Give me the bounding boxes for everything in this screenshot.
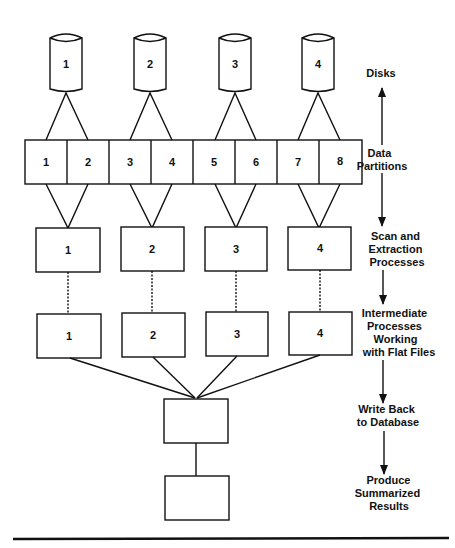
scan-process-label: 4 xyxy=(317,242,324,254)
partition-7: 7 xyxy=(295,156,301,168)
scan-extraction-processes: 1 2 3 4 xyxy=(36,227,351,272)
partition-1: 1 xyxy=(43,156,49,168)
summary-results-box xyxy=(165,476,229,520)
disk-label: 3 xyxy=(232,58,238,70)
disk-4: 4 xyxy=(302,34,334,92)
connector xyxy=(130,184,172,228)
connector xyxy=(46,184,88,228)
intermediate-process-label: 4 xyxy=(317,327,324,339)
connector xyxy=(298,184,340,228)
scan-process-label: 3 xyxy=(233,243,239,255)
partition-2: 2 xyxy=(85,156,91,168)
partition-scan-connectors xyxy=(46,184,340,228)
stage-label-intermediate: Intermediate Processes Working with Flat… xyxy=(362,307,436,358)
stage-label-write-back: Write Back to Database xyxy=(357,403,419,428)
data-partitions-row: 1 2 3 4 5 6 7 8 xyxy=(25,140,362,184)
connector xyxy=(215,93,256,140)
partition-6: 6 xyxy=(253,156,259,168)
disk-3: 3 xyxy=(219,34,251,92)
disk-label: 4 xyxy=(315,58,322,70)
merge-connectors xyxy=(70,355,320,398)
intermediate-process-label: 1 xyxy=(66,330,72,342)
stage-label-partitions: Data Partitions xyxy=(357,147,408,172)
scan-process-label: 1 xyxy=(65,244,71,256)
intermediate-process-label: 3 xyxy=(234,328,240,340)
disk-2: 2 xyxy=(134,34,166,92)
partition-3: 3 xyxy=(127,156,133,168)
stage-label-disks: Disks xyxy=(366,67,395,79)
connector xyxy=(46,93,88,140)
connector xyxy=(298,93,340,140)
parallel-processing-diagram: 1 2 3 4 1 2 3 xyxy=(0,0,455,548)
intermediate-processes: 1 2 3 4 xyxy=(37,312,352,358)
connector xyxy=(215,184,256,228)
scan-process-label: 2 xyxy=(149,243,155,255)
stage-labels: Disks Data Partitions Scan and Extractio… xyxy=(355,67,436,512)
partition-5: 5 xyxy=(211,156,217,168)
stage-label-scan: Scan and Extraction Processes xyxy=(369,230,426,268)
connector xyxy=(130,93,172,140)
partition-4: 4 xyxy=(169,156,176,168)
write-back-box xyxy=(164,399,228,443)
disk-label: 1 xyxy=(63,58,69,70)
intermediate-process-label: 2 xyxy=(150,329,156,341)
stage-label-summarize: Produce Summarized Results xyxy=(355,474,423,512)
dotted-connectors xyxy=(68,270,320,314)
disk-label: 2 xyxy=(147,58,153,70)
disks-row: 1 2 3 4 xyxy=(50,34,334,92)
disk-1: 1 xyxy=(50,34,82,92)
partition-8: 8 xyxy=(337,155,343,167)
disk-partition-connectors xyxy=(46,93,340,140)
bottom-rule-divider xyxy=(13,538,449,539)
